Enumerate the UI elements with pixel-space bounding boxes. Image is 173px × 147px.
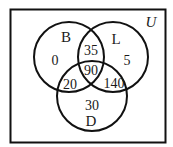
set-l-label: L: [111, 31, 120, 47]
venn-diagram: U B L D 0 5 30 35 20 140 90: [0, 0, 173, 147]
region-b-only: 0: [52, 53, 59, 68]
universe-label: U: [146, 14, 158, 30]
region-l-only: 5: [124, 53, 131, 68]
region-all-three: 90: [84, 63, 98, 78]
region-b-and-d: 20: [63, 77, 77, 92]
set-d-label: D: [86, 113, 97, 129]
set-b-label: B: [61, 29, 71, 45]
region-d-only: 30: [85, 98, 99, 113]
region-l-and-d: 140: [104, 76, 125, 91]
region-b-and-l: 35: [84, 43, 98, 58]
